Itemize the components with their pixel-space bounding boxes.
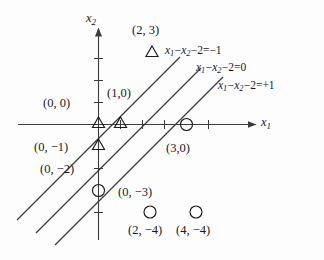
line-label-plus-one: x1−x2−2=+1 [218,80,275,94]
x-axis-title: x1 [261,116,271,131]
scatter-plot-figure [0,0,324,260]
marker-triangle-2-3 [146,46,158,57]
point-label-2-3: (2, 3) [132,24,159,37]
line-label-zero: x1−x2−2=0 [196,62,246,76]
point-label-0-minus-3: (0, −3) [118,186,152,199]
point-label-0-minus-1: (0, −1) [34,141,68,154]
y-axis-title: x2 [86,12,96,27]
circle-markers-group [93,119,203,219]
point-label-2-minus-4: (2, −4) [128,224,162,237]
marker-circle-4-minus-4 [190,206,202,218]
marker-circle-2-minus-4 [144,206,156,218]
point-label-1-0: (1,0) [107,87,131,100]
point-label-4-minus-4: (4, −4) [176,224,210,237]
point-label-0-minus-2: (0, −2) [40,163,74,176]
point-label-0-0: (0, 0) [43,97,70,110]
line-label-minus-one: x1−x2−2=−1 [165,45,222,59]
point-label-3-0: (3,0) [166,142,190,155]
decision-line-plus-one [55,77,223,245]
y-axis-title-subscript: 2 [92,17,97,27]
axes-group [18,28,256,240]
x-axis-title-subscript: 1 [267,121,272,131]
